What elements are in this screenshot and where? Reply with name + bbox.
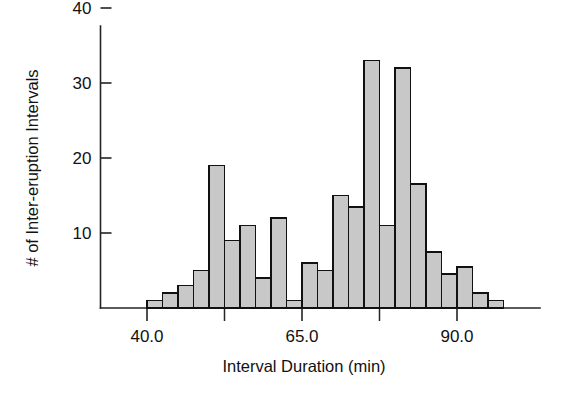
y-tick-label-30: 30: [73, 74, 92, 93]
chart-canvas: 10203040 40.065.090.0 Interval Duration …: [0, 0, 577, 397]
x-tick-label-40.0: 40.0: [130, 327, 163, 346]
bars-group: [147, 61, 504, 309]
histogram-bar: [364, 61, 380, 309]
histogram-bar: [147, 301, 163, 309]
histogram-bar: [256, 278, 272, 308]
histogram-bar: [178, 286, 194, 309]
histogram-bar: [271, 218, 287, 308]
histogram-bar: [488, 301, 504, 309]
histogram-bar: [333, 196, 349, 309]
histogram-bar: [442, 274, 458, 308]
histogram-bar: [380, 226, 396, 309]
x-axis-title: Interval Duration (min): [222, 357, 385, 375]
histogram-bar: [426, 252, 442, 308]
histogram-bar: [194, 271, 210, 309]
y-axis: 10203040: [73, 0, 112, 308]
x-axis: 40.065.090.0: [101, 308, 541, 346]
histogram-figure: 10203040 40.065.090.0 Interval Duration …: [0, 0, 577, 397]
histogram-bar: [411, 184, 427, 308]
histogram-bar: [287, 301, 303, 309]
histogram-bar: [240, 226, 256, 309]
x-tick-label-65.0: 65.0: [285, 327, 318, 346]
histogram-bar: [457, 267, 473, 308]
histogram-bar: [209, 166, 225, 309]
y-tick-label-20: 20: [73, 149, 92, 168]
axis-labels: Interval Duration (min)# of Inter-erupti…: [23, 69, 386, 375]
histogram-bar: [225, 241, 241, 309]
y-axis-title: # of Inter-eruption Intervals: [23, 69, 41, 266]
y-tick-label-10: 10: [73, 224, 92, 243]
histogram-bar: [349, 207, 365, 308]
histogram-bar: [302, 263, 318, 308]
histogram-bar: [163, 293, 179, 308]
x-tick-label-90.0: 90.0: [440, 327, 473, 346]
y-tick-label-40: 40: [73, 0, 92, 18]
histogram-bar: [473, 293, 489, 308]
histogram-bar: [395, 68, 411, 308]
histogram-bar: [318, 271, 334, 309]
